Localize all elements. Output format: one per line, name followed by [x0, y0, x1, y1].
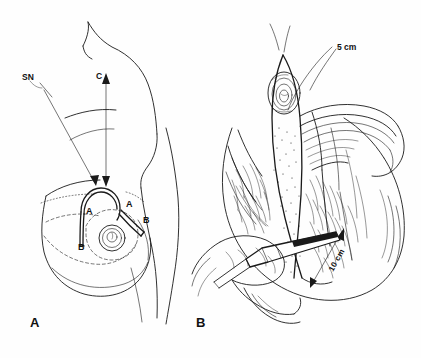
label-clavicle: C [96, 71, 102, 81]
canvas-background [0, 0, 421, 358]
mark-a-right: A [126, 199, 133, 209]
surgical-illustration-canvas: SN C A A B B A [0, 0, 421, 358]
mark-a-left: A [86, 206, 93, 216]
panel-a-label: A [30, 315, 40, 330]
panel-b-label: B [196, 315, 205, 330]
mark-b-left: B [78, 242, 85, 252]
label-measurement-5cm: 5 cm [337, 42, 357, 52]
label-sternal-notch: SN [22, 72, 34, 82]
mark-b-right: B [143, 215, 150, 225]
figure-root: SN C A A B B A [0, 0, 421, 358]
